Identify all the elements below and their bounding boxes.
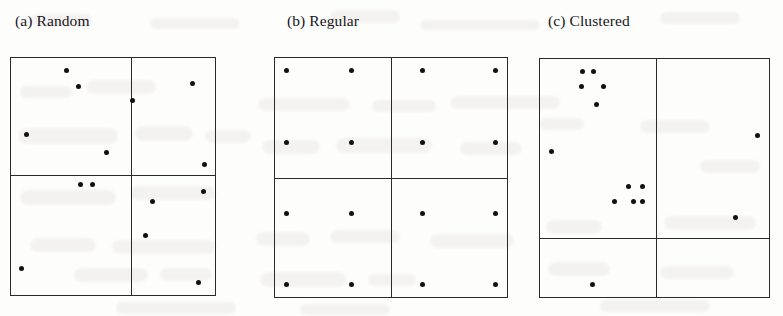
data-point bbox=[143, 233, 148, 238]
data-point bbox=[591, 69, 596, 74]
panel-a-plot-box bbox=[10, 57, 216, 296]
data-point bbox=[76, 84, 81, 89]
data-point bbox=[580, 69, 585, 74]
data-point bbox=[78, 182, 83, 187]
panel-c-plot-box bbox=[539, 58, 770, 298]
data-point bbox=[493, 282, 498, 287]
panel-a-horizontal-quadrat-divider bbox=[10, 175, 216, 176]
data-point bbox=[493, 140, 498, 145]
data-point bbox=[19, 266, 24, 271]
panel-c-horizontal-quadrat-divider bbox=[539, 238, 770, 239]
panel-b-horizontal-quadrat-divider bbox=[274, 178, 508, 179]
data-point bbox=[631, 199, 636, 204]
data-point bbox=[601, 84, 606, 89]
data-point bbox=[493, 211, 498, 216]
panel-a-title: (a) Random bbox=[15, 12, 90, 30]
data-point bbox=[201, 189, 206, 194]
data-point bbox=[64, 68, 69, 73]
figure-spatial-point-patterns: (a) Random (b) Regular (c) Clustered bbox=[0, 0, 783, 316]
panel-c-title: (c) Clustered bbox=[548, 12, 630, 30]
data-point bbox=[640, 199, 645, 204]
data-point bbox=[420, 211, 425, 216]
data-point bbox=[104, 150, 109, 155]
panel-a-vertical-quadrat-divider bbox=[131, 57, 132, 296]
data-point bbox=[626, 184, 631, 189]
panel-c-vertical-quadrat-divider bbox=[656, 58, 657, 298]
data-point bbox=[420, 68, 425, 73]
panel-b-title: (b) Regular bbox=[287, 12, 359, 30]
data-point bbox=[90, 182, 95, 187]
data-point bbox=[640, 184, 645, 189]
data-point bbox=[493, 68, 498, 73]
